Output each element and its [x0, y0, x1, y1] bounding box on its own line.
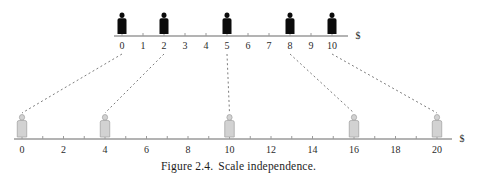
bottom-axis-tick-label: 2 [61, 144, 66, 155]
bottom-axis-tick-label: 4 [103, 144, 108, 155]
person-marker-light [100, 115, 109, 137]
bottom-axis-tick-label: 20 [432, 144, 442, 155]
person-body [286, 18, 295, 34]
person-head [225, 13, 230, 18]
person-body [17, 121, 26, 137]
person-body [349, 121, 358, 137]
person-marker-dark [118, 13, 127, 34]
bottom-axis-tick-label: 16 [349, 144, 359, 155]
person-head [434, 115, 439, 121]
top-axis-tick-label: 0 [120, 40, 125, 51]
bottom-axis-tick-label: 8 [186, 144, 191, 155]
person-head [351, 115, 356, 121]
bottom-axis-tick-label: 14 [308, 144, 318, 155]
person-head [162, 13, 167, 18]
person-head [120, 13, 125, 18]
top-axis-tick-label: 2 [162, 40, 167, 51]
bottom-axis-tick-label: 10 [225, 144, 235, 155]
person-marker-light [349, 115, 358, 137]
top-axis-unit: $ [356, 30, 361, 41]
top-axis-tick-label: 3 [183, 40, 188, 51]
person-head [102, 115, 107, 121]
bottom-axis-unit: $ [460, 133, 465, 144]
figure-caption-text: Scale independence. [218, 160, 316, 172]
figure-caption: Figure 2.4.Scale independence. [0, 160, 477, 172]
bottom-axis-tick-label: 18 [391, 144, 401, 155]
bottom-axis-tick-label: 0 [20, 144, 25, 155]
connector-line [332, 54, 437, 113]
connector-lines-group [22, 54, 437, 113]
top-axis-tick-label: 1 [141, 40, 146, 51]
top-axis-tick-label: 10 [327, 40, 337, 51]
person-body [432, 121, 441, 137]
bottom-people-group [17, 115, 441, 137]
person-head [330, 13, 335, 18]
person-marker-light [432, 115, 441, 137]
person-marker-dark [328, 13, 337, 34]
person-body [118, 18, 127, 34]
person-head [288, 13, 293, 18]
figure-caption-number: Figure 2.4. [161, 160, 213, 172]
top-axis-tick-label: 6 [246, 40, 251, 51]
figure-scale-independence: 012345678910 02468101214161820 $$ Figure… [0, 0, 477, 184]
person-marker-dark [286, 13, 295, 34]
top-axis-group: 012345678910 [114, 33, 348, 51]
top-axis-tick-label: 7 [267, 40, 272, 51]
person-body [223, 18, 232, 34]
person-body [225, 121, 234, 137]
person-marker-dark [223, 13, 232, 34]
person-body [160, 18, 169, 34]
top-axis-tick-label: 9 [309, 40, 314, 51]
connector-line [227, 54, 230, 113]
connector-line [290, 54, 354, 113]
connector-line [105, 54, 164, 113]
top-axis-tick-label: 4 [204, 40, 209, 51]
bottom-axis-group: 02468101214161820 [14, 136, 452, 155]
top-axis-tick-label: 5 [225, 40, 230, 51]
top-axis-tick-label: 8 [288, 40, 293, 51]
person-marker-light [225, 115, 234, 137]
bottom-axis-tick-label: 6 [144, 144, 149, 155]
person-body [100, 121, 109, 137]
person-head [227, 115, 232, 121]
person-marker-light [17, 115, 26, 137]
person-body [328, 18, 337, 34]
figure-canvas: 012345678910 02468101214161820 $$ [0, 0, 477, 184]
bottom-axis-tick-label: 12 [266, 144, 276, 155]
axis-unit-labels-group: $$ [356, 30, 465, 144]
top-people-group [118, 13, 337, 34]
person-head [19, 115, 24, 121]
person-marker-dark [160, 13, 169, 34]
connector-line [22, 54, 122, 113]
